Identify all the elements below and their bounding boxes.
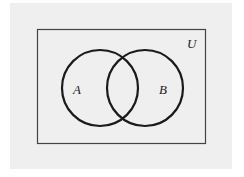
set-a-label: A [72, 82, 81, 97]
set-b-circle [107, 50, 183, 126]
venn-diagram: U A B [0, 0, 244, 177]
set-b-label: B [159, 82, 167, 97]
universe-label: U [187, 36, 198, 51]
